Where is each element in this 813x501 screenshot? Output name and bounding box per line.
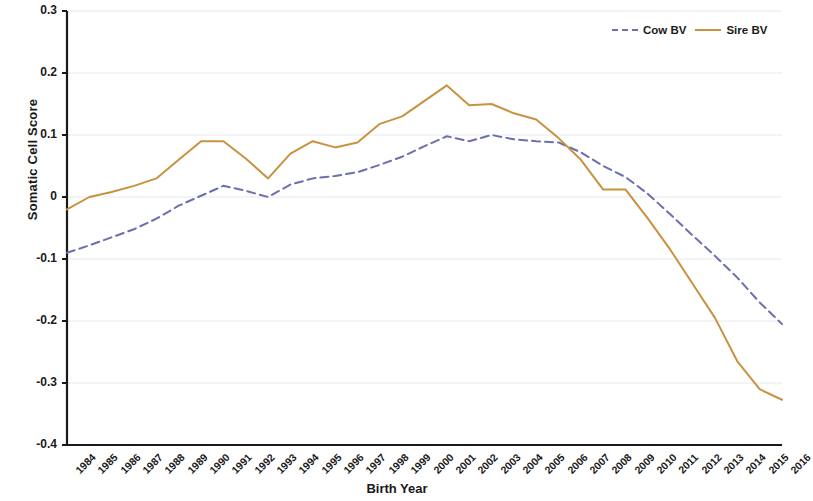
y-tick-label: -0.1 xyxy=(11,251,57,265)
legend-swatch-cow-bv xyxy=(612,29,638,31)
legend-entry-sire-bv: Sire BV xyxy=(695,24,767,36)
y-tick-label: 0.3 xyxy=(11,3,57,17)
y-axis-label: Somatic Cell Score xyxy=(25,80,40,240)
chart-legend: Cow BV Sire BV xyxy=(612,24,767,36)
legend-entry-cow-bv: Cow BV xyxy=(612,24,686,36)
y-tick-label: -0.2 xyxy=(11,313,57,327)
legend-label-sire-bv: Sire BV xyxy=(726,24,767,36)
series-line-sire-bv xyxy=(67,85,782,399)
y-tick-label: -0.4 xyxy=(11,437,57,451)
y-tick-label: -0.3 xyxy=(11,375,57,389)
y-tick-label: 0.1 xyxy=(11,127,57,141)
legend-label-cow-bv: Cow BV xyxy=(643,24,686,36)
x-axis-label: Birth Year xyxy=(0,481,794,496)
y-tick-label: 0.2 xyxy=(11,65,57,79)
y-tick-label: 0 xyxy=(11,189,57,203)
legend-swatch-sire-bv xyxy=(695,29,721,31)
